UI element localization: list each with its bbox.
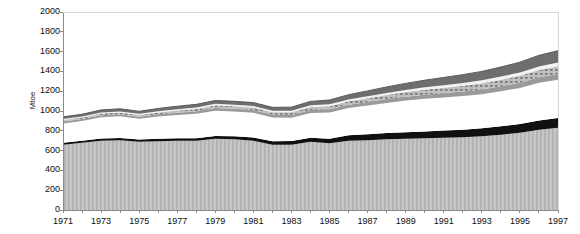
x-tick-label: 1995 — [503, 216, 537, 226]
chart-svg — [0, 0, 580, 234]
x-tick-label: 1993 — [465, 216, 499, 226]
x-tick-label: 1991 — [427, 216, 461, 226]
stacked-area-chart: Mtoe 20001800160014001200100080060040020… — [0, 0, 580, 234]
x-tick-label: 1981 — [236, 216, 270, 226]
x-tick-label: 1987 — [351, 216, 385, 226]
x-tick-label: 1983 — [274, 216, 308, 226]
x-tick-label: 1975 — [122, 216, 156, 226]
x-tick-label: 1997 — [541, 216, 575, 226]
x-tick-label: 1989 — [389, 216, 423, 226]
plot-area — [0, 0, 580, 234]
x-tick-label: 1971 — [46, 216, 80, 226]
x-tick-label: 1973 — [84, 216, 118, 226]
x-tick-label: 1985 — [313, 216, 347, 226]
x-tick-label: 1979 — [198, 216, 232, 226]
series-layer — [63, 51, 558, 210]
x-tick-label: 1977 — [160, 216, 194, 226]
